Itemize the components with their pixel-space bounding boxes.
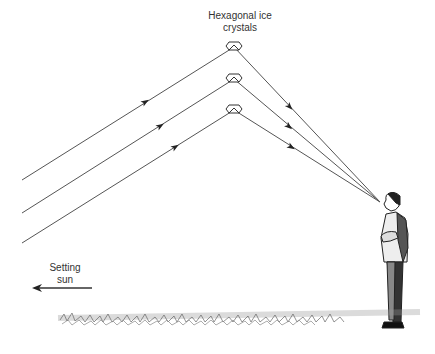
observer-figure [381,192,408,328]
incoming-arrowheads [140,97,180,151]
arrowhead-icon [284,122,294,132]
reflected-arrowheads [284,102,296,152]
reflected-rays [234,47,380,202]
hexagon-crystal-icon [226,74,242,82]
sun-direction-arrow [32,284,92,292]
arrowhead-icon [170,142,180,151]
incoming-rays [22,47,234,243]
incoming-ray-2 [22,79,234,213]
hexagon-crystal-icon [226,105,242,113]
arrowhead-icon [155,121,165,130]
diagram-canvas [0,0,435,354]
incoming-ray-3 [22,110,234,243]
reflected-ray-1 [234,47,380,202]
incoming-ray-1 [22,47,234,180]
grass-ground [58,312,420,325]
hexagon-crystal-icon [226,42,242,50]
reflected-ray-2 [234,79,380,202]
shoes [382,322,404,328]
